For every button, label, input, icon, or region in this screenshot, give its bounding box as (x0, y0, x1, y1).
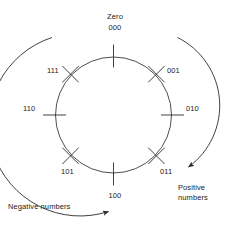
zero-caption: Zero (95, 12, 135, 21)
code-label-100: 100 (95, 191, 135, 200)
code-label-000: 000 (95, 23, 135, 32)
number-circle (56, 57, 172, 173)
code-label-011: 011 (160, 167, 172, 176)
negative-numbers-label: Negative numbers (8, 202, 70, 211)
positive-numbers-line2: numbers (178, 193, 208, 202)
code-label-010: 010 (186, 104, 199, 113)
tick-marks (43, 45, 184, 186)
positive-direction-arc (178, 38, 220, 168)
negative-direction-arc (0, 38, 109, 216)
code-label-101: 101 (61, 167, 74, 176)
code-label-110: 110 (23, 104, 35, 113)
positive-numbers-label: Positive numbers (178, 183, 224, 202)
positive-numbers-line1: Positive (178, 183, 205, 192)
number-circle-diagram: Zero 000 001 010 011 100 101 110 111 Neg… (0, 0, 228, 230)
code-label-001: 001 (167, 66, 180, 75)
code-label-111: 111 (47, 66, 59, 75)
